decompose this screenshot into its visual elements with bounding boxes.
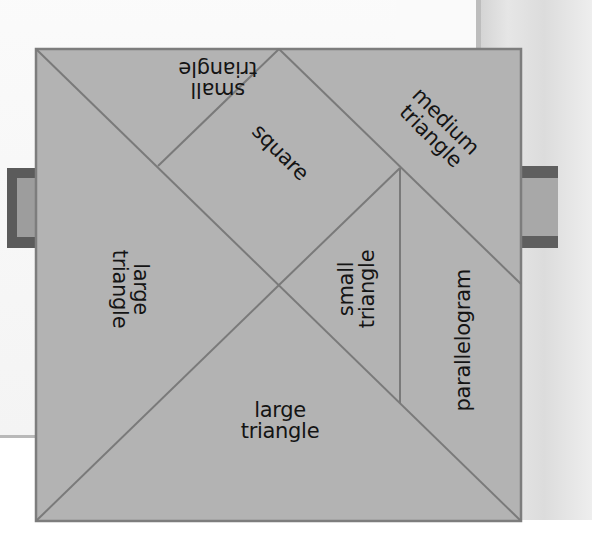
label-line: triangle [230, 421, 330, 442]
label-line: small [336, 239, 357, 339]
label-line: small [168, 79, 268, 100]
label-small-triangle-top: small triangle [168, 58, 268, 100]
label-line: large [230, 400, 330, 421]
label-small-triangle-middle: small triangle [336, 239, 378, 339]
label-line: triangle [357, 239, 378, 339]
label-line: large [130, 239, 151, 339]
label-parallelogram: parallelogram [453, 272, 474, 412]
label-line: triangle [168, 58, 268, 79]
label-large-triangle-bottom: large triangle [230, 400, 330, 442]
label-line: triangle [109, 239, 130, 339]
label-line: parallelogram [453, 272, 474, 412]
label-large-triangle-left: large triangle [109, 239, 151, 339]
